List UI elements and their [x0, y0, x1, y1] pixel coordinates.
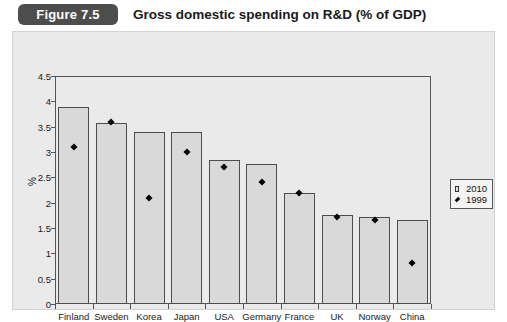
legend-label: 2010	[466, 183, 487, 194]
y-axis-tick-mark	[51, 177, 56, 178]
y-axis-tick-mark	[51, 253, 56, 254]
x-axis-tick-label: Japan	[174, 311, 200, 322]
y-axis-tick-label: 2.5	[38, 172, 51, 183]
y-axis-tick-label: 3.5	[38, 121, 51, 132]
legend-diamond-icon	[455, 197, 461, 203]
x-axis-tick-mark	[205, 304, 206, 309]
legend-square-icon	[455, 186, 459, 192]
x-axis-tick-label: Finland	[58, 311, 89, 322]
x-axis-tick-mark	[431, 304, 432, 309]
bar	[359, 217, 390, 304]
y-axis-tick-label: 1.5	[38, 223, 51, 234]
figure-number-badge: Figure 7.5	[18, 4, 118, 25]
x-axis-tick-mark	[243, 304, 244, 309]
figure-header: Figure 7.5 Gross domestic spending on R&…	[0, 0, 507, 31]
x-axis-tick-mark	[356, 304, 357, 309]
legend-entry: 1999	[455, 194, 487, 205]
bar	[322, 215, 353, 304]
legend-marker	[455, 197, 463, 202]
x-axis-tick-label: Norway	[358, 311, 390, 322]
x-axis-tick-label: USA	[214, 311, 234, 322]
y-axis-tick-mark	[51, 228, 56, 229]
bar	[171, 132, 202, 304]
x-axis-tick-label: China	[400, 311, 425, 322]
x-axis-tick-mark	[168, 304, 169, 309]
legend-entry: 2010	[455, 183, 487, 194]
x-axis-tick-mark	[130, 304, 131, 309]
chart-panel: % 00.511.522.533.544.5 20101999 FinlandS…	[12, 31, 495, 310]
x-axis-tick-mark	[393, 304, 394, 309]
x-axis-tick-mark	[93, 304, 94, 309]
x-axis-tick-mark	[55, 304, 56, 309]
legend-label: 1999	[466, 194, 487, 205]
y-axis-tick-mark	[51, 279, 56, 280]
y-axis-tick-mark	[51, 152, 56, 153]
x-axis-tick-label: UK	[330, 311, 343, 322]
x-axis-tick-label: France	[285, 311, 315, 322]
y-axis-tick-label: 4.5	[38, 71, 51, 82]
chart-legend: 20101999	[450, 179, 493, 209]
bar	[96, 123, 127, 304]
legend-marker	[455, 186, 463, 192]
y-axis-tick-mark	[51, 127, 56, 128]
y-axis-tick-label: 0.5	[38, 273, 51, 284]
y-axis-tick-mark	[51, 101, 56, 102]
y-axis-tick-labels: 00.511.522.533.544.5	[13, 76, 51, 304]
x-axis-tick-label: Korea	[136, 311, 161, 322]
x-axis-tick-label: Germany	[242, 311, 281, 322]
bar	[134, 132, 165, 304]
bar	[58, 107, 89, 304]
y-axis-tick-mark	[51, 76, 56, 77]
x-axis-tick-label: Sweden	[94, 311, 128, 322]
page-title: Gross domestic spending on R&D (% of GDP…	[133, 4, 426, 25]
bar	[209, 160, 240, 304]
bar	[284, 193, 315, 304]
y-axis-tick-mark	[51, 203, 56, 204]
x-axis-tick-mark	[281, 304, 282, 309]
x-axis-tick-mark	[318, 304, 319, 309]
